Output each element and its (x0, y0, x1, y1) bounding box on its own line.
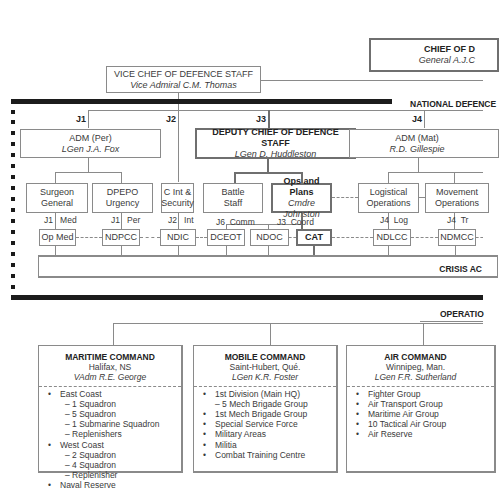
branch-movement-operations: Movement Operations (425, 183, 489, 213)
air-command-box: AIR COMMAND Winnipeg, Man. LGen F.R. Sut… (346, 345, 496, 473)
j4-label: J4 (412, 114, 422, 124)
adm-per-name: LGen J.A. Fox (62, 144, 120, 155)
branch-line1: C Int & (164, 187, 192, 198)
centre-op-med: Op Med (39, 229, 76, 246)
command-location: Saint-Hubert, Qué. (194, 362, 336, 372)
cds-name: General A.J.C (419, 55, 475, 66)
dcds-title: DEPUTY CHIEF OF DEFENCE STAFF (197, 127, 354, 149)
vcds-title: VICE CHEF OF DEFENCE STAFF (114, 69, 253, 80)
branch-line2: Operations (435, 198, 479, 209)
branch-ops-and-plans: Ops and Plans Cmdre Johnston (271, 183, 332, 213)
j3-label: J3 (256, 114, 266, 124)
vcds-box: VICE CHEF OF DEFENCE STAFF Vice Admiral … (106, 66, 261, 93)
adm-mat-down (418, 158, 419, 172)
list-item: Combat Training Centre (202, 450, 336, 460)
branch-logistical-operations: Logistical Operations (358, 183, 419, 213)
operations-top-connector (113, 323, 483, 324)
list-item: 1st Mech Brigade Group (202, 409, 336, 419)
list-item: East Coast (47, 389, 181, 399)
command-units-list: Fighter Group Air Transport Group Mariti… (347, 389, 494, 440)
battle-up (234, 172, 236, 183)
j3-connector (268, 110, 270, 128)
centre-crisis-link (226, 246, 227, 255)
list-item: – 2 Squadron (47, 450, 181, 460)
command-commander: LGen K.R. Foster (194, 372, 336, 382)
j2-label: J2 (166, 114, 176, 124)
adm-per-down (88, 158, 89, 172)
centres-dashed-link (140, 237, 160, 238)
branch-line1: Logistical (370, 187, 408, 198)
branch-line2: Operations (366, 198, 410, 209)
branch-line1: Battle (221, 187, 244, 198)
list-item: Military Areas (202, 429, 336, 439)
dcds-branch (234, 172, 303, 174)
centre-crisis-link (55, 246, 56, 255)
centre-ndlcc: NDLCC (373, 229, 411, 246)
cds-title: CHIEF OF D (424, 44, 475, 55)
branch-c-int-security: C Int & Security (161, 183, 194, 213)
command-location: Winnipeg, Man. (347, 362, 484, 372)
centres-dashed-link (289, 237, 296, 238)
ndhq-bottom-bar (11, 295, 483, 300)
branch-surgeon-general: Surgeon General (26, 183, 88, 213)
tag-ndlcc: J4 Log (380, 215, 408, 225)
centre-crisis-link (388, 246, 389, 255)
branch-line1: Movement (436, 187, 478, 198)
tag-ndic: J2 Int (168, 215, 194, 225)
branch-line2: Urgency (106, 198, 140, 209)
command-location: Halifax, NS (39, 362, 181, 372)
tag-ndmcc: J4 Tr (447, 215, 468, 225)
list-item: Special Service Force (202, 419, 336, 429)
adm-mat-name: R.D. Gillespie (389, 144, 444, 155)
command-title: AIR COMMAND (347, 352, 484, 362)
ndhq-top-bar (11, 99, 392, 104)
dpepo-up (121, 172, 122, 183)
branch-dpepo-urgency: DPEPO Urgency (92, 183, 153, 213)
list-item: Air Reserve (355, 429, 494, 439)
adm-mat-box: ADM (Mat) R.D. Gillespie (349, 129, 499, 158)
mov-up (454, 172, 455, 183)
centres-dashed-link (411, 237, 438, 238)
j4-connector (424, 110, 425, 128)
log-mov-dashed-link (419, 197, 425, 198)
branch-battle-staff: Battle Staff (203, 183, 263, 213)
list-item: – 5 Squadron (47, 409, 181, 419)
list-item: 10 Tactical Air Group (355, 419, 494, 429)
ops-log-dashed-link (332, 197, 358, 198)
centres-dashed-link (332, 237, 373, 238)
branch-line1: Surgeon (40, 187, 74, 198)
tag-opmed: J1 Med (44, 215, 77, 225)
centres-dashed-link (76, 237, 102, 238)
centre-crisis-link (455, 246, 456, 255)
operations-section-label: OPERATIO (440, 309, 484, 319)
command-units-list: 1st Division (Main HQ) – 5 Mech Brigade … (194, 389, 336, 460)
vcds-down-connector (178, 93, 179, 182)
adm-mat-branch (388, 172, 483, 173)
command-title: MOBILE COMMAND (194, 352, 336, 362)
centres-dashed-link (196, 237, 207, 238)
command-units-list: East Coast – 1 Squadron – 5 Squadron – 1… (39, 389, 181, 491)
crisis-action-box: CRISIS AC (38, 255, 498, 278)
list-item: – 1 Squadron (47, 399, 181, 409)
list-item: – 5 Mech Brigade Group (202, 399, 336, 409)
adm-mat-title: ADM (Mat) (395, 133, 439, 144)
centres-dashed-link (476, 237, 483, 238)
list-item: – Replenishers (47, 429, 181, 439)
list-item: Naval Reserve (47, 480, 181, 490)
command-commander: LGen F.R. Sutherland (347, 372, 484, 382)
mobile-up (270, 323, 271, 345)
centre-crisis-link (268, 246, 269, 255)
centre-ndic: NDIC (160, 229, 196, 246)
dcds-down (267, 159, 269, 172)
centre-ndmcc: NDMCC (438, 229, 476, 246)
centre-ndpcc: NDPCC (102, 229, 140, 246)
branch-line1: DPEPO (107, 187, 139, 198)
air-up (423, 323, 424, 345)
maritime-command-box: MARITIME COMMAND Halifax, NS VAdm R.E. G… (38, 345, 183, 473)
centre-crisis-link (121, 246, 122, 255)
centre-crisis-link (178, 246, 179, 255)
surgeon-up (55, 172, 56, 183)
dcds-box: DEPUTY CHIEF OF DEFENCE STAFF LGen D. Hu… (195, 128, 356, 159)
maritime-up (113, 323, 114, 345)
tag-dceot: J6 Comm (216, 217, 255, 227)
